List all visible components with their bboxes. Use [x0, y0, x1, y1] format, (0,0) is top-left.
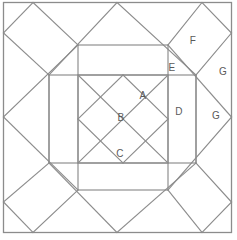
diag-bl-to-sq3: [33, 190, 78, 233]
diag-tr-to-sq3: [168, 3, 202, 46]
diag-topmid-to-sq2-tl: [49, 3, 117, 76]
diag-leftmid-to-sq3-bl: [4, 117, 79, 190]
patch-label-a: A: [140, 90, 147, 101]
diag-tl-to-sq2: [4, 33, 50, 75]
patch-label-g-upper: G: [219, 66, 227, 77]
patch-label-c: C: [116, 148, 123, 159]
quilt-block-diagram: A B C D E F G G: [0, 0, 237, 240]
diag-botmid-to-sq2-br: [117, 163, 196, 233]
diag-br-to-sq3: [168, 190, 202, 233]
diag-tl-to-sq3: [33, 3, 78, 46]
patch-label-b: B: [118, 112, 125, 123]
diag-corner-bl-outer: [4, 202, 34, 233]
diag-corner-tl-outer: [4, 3, 34, 34]
diag-botmid-to-sq2-bl: [49, 163, 117, 233]
diag-leftmid-to-sq3-tl: [4, 45, 79, 117]
patch-label-e: E: [169, 62, 176, 73]
diag-bl-to-sq2: [4, 163, 50, 202]
diagram-canvas: A B C D E F G G: [0, 0, 237, 240]
diag-corner-br-outer: [202, 202, 232, 233]
diag-corner-tr-outer: [202, 3, 232, 34]
patch-label-d: D: [175, 106, 182, 117]
diag-br-to-sq2: [196, 163, 232, 202]
patch-label-f: F: [190, 35, 196, 46]
patch-label-g-lower: G: [212, 110, 220, 121]
diag-rightmid-to-sq3-br: [168, 117, 232, 190]
